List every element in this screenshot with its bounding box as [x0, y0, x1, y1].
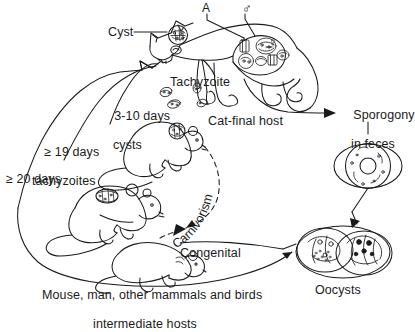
label-sporogony: Sporogony in feces	[339, 94, 415, 180]
label-20-days: ≥ 20 days	[6, 172, 61, 186]
oocyst-pair-drawing	[283, 212, 392, 278]
label-3-10-days-line2: cysts	[113, 138, 170, 152]
ingest-arrowhead-rat	[173, 224, 186, 236]
label-marker-male: ♂	[242, 2, 252, 17]
label-marker-female: ♀	[268, 36, 278, 51]
label-cat-final-host: Cat-final host	[208, 114, 283, 128]
label-19-days-line1: ≥ 19 days	[44, 145, 99, 159]
label-3-10-days-line1: 3-10 days	[114, 109, 170, 123]
label-oocysts: Oocysts	[315, 283, 361, 297]
label-sporogony-line2: in feces	[351, 137, 415, 151]
label-intermediate-hosts: Mouse, man, other mammals and birds inte…	[12, 274, 278, 332]
carnivorism-arrowhead	[186, 220, 196, 228]
label-marker-a: A	[202, 2, 210, 16]
label-hosts-line1: Mouse, man, other mammals and birds	[42, 288, 262, 302]
label-hosts-line2: intermediate hosts	[12, 317, 278, 331]
feces-to-sporogony-arrow	[244, 79, 336, 118]
label-congenital: Congenital	[180, 246, 241, 260]
label-sporogony-line1: Sporogony	[353, 108, 414, 122]
label-tachyzoite: Tachyzoite	[170, 75, 230, 89]
cat-drawing	[150, 21, 318, 111]
label-cyst: Cyst	[108, 25, 133, 39]
label-3-10-days: 3-10 days cysts	[100, 95, 170, 181]
